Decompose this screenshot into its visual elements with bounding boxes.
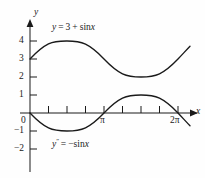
x-axis-label: x <box>196 107 200 117</box>
y-tick-label-minus-1: −1 <box>14 126 24 136</box>
y-tick-label-1: 1 <box>19 90 24 100</box>
lower-curve-equation: y″=−sinx <box>52 138 89 150</box>
curve-upper-3-plus-sin-x <box>30 41 190 77</box>
lower-eq-function: sin <box>74 139 85 149</box>
lower-eq-double-prime: ″ <box>56 137 59 145</box>
y-tick-label-2: 2 <box>19 72 24 82</box>
upper-eq-lhs: y <box>52 22 56 32</box>
y-tick-label-3: 3 <box>19 54 24 64</box>
upper-eq-function: sin <box>80 22 91 32</box>
upper-curve-equation: y=3+sinx <box>52 23 95 33</box>
x-tick-label-2pi: 2π <box>170 116 180 126</box>
y-axis-arrowhead <box>27 19 34 27</box>
plot-canvas <box>0 0 205 178</box>
y-tick-label-minus-2: −2 <box>14 144 24 154</box>
lower-eq-equals: = <box>61 139 66 149</box>
x-tick-marks <box>49 106 179 113</box>
upper-eq-argument: x <box>91 22 95 32</box>
upper-eq-constant: 3 <box>66 22 71 32</box>
lower-eq-argument: x <box>85 139 89 149</box>
upper-eq-plus: + <box>72 22 77 32</box>
graph-figure: 4 3 2 1 0 −1 −2 π 2π y x y=3+sinx y″=−si… <box>0 0 205 178</box>
y-axis-label: y <box>34 8 38 18</box>
upper-eq-equals: = <box>58 22 63 32</box>
y-tick-label-4: 4 <box>19 36 24 46</box>
x-tick-label-pi: π <box>100 116 105 126</box>
